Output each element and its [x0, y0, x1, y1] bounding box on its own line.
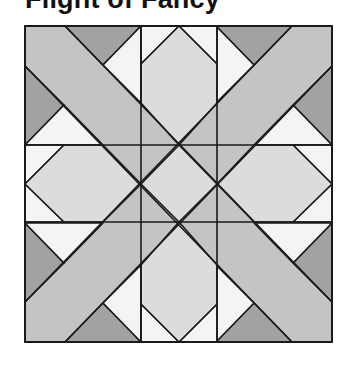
quilt-pieces: [25, 26, 332, 342]
quilt-block-diagram: [0, 0, 353, 368]
